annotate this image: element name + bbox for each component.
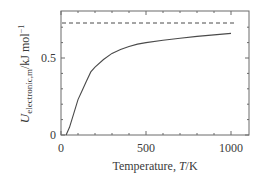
plot-frame <box>61 11 249 135</box>
x-axis-label: Temperature, T/K <box>112 159 197 173</box>
x-tick-label: 0 <box>58 141 64 155</box>
y-tick-label: 0.5 <box>41 51 56 65</box>
y-tick-label: 0 <box>50 128 56 142</box>
energy-curve <box>66 33 231 135</box>
x-tick-label: 1000 <box>219 141 243 155</box>
x-tick-label: 500 <box>137 141 155 155</box>
tick-labels: 0500100000.5 <box>41 51 243 155</box>
axis-ticks <box>61 11 249 135</box>
chart: 0500100000.5 Temperature, T/K Uelectroni… <box>0 0 260 183</box>
y-axis-label: Uelectronic,m/kJ mol−1 <box>17 25 34 123</box>
